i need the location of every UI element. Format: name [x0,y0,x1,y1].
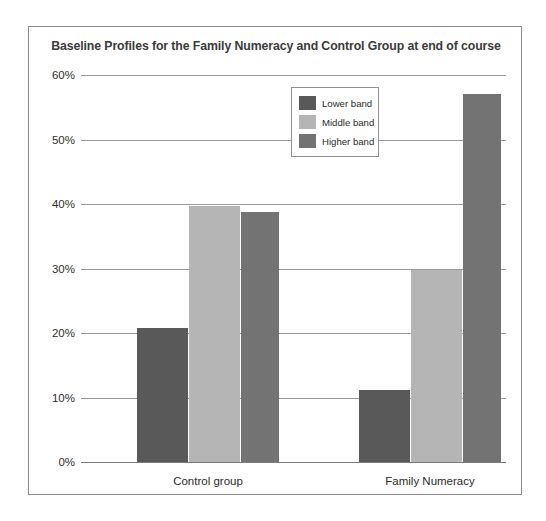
bar [463,94,501,462]
gridline [81,204,506,205]
gridline [81,269,506,270]
bar [359,390,410,462]
y-axis-tick-label: 60% [29,69,75,81]
y-axis-tick-label: 10% [29,392,75,404]
y-axis-tick-label: 50% [29,134,75,146]
chart-title: Baseline Profiles for the Family Numerac… [29,39,523,53]
legend-color-swatch [299,96,316,110]
bar [241,212,279,462]
legend-color-swatch [299,115,316,129]
legend-item: Higher band [299,132,372,150]
x-axis-line [81,462,506,463]
bar [137,328,188,462]
x-axis-category-label: Family Numeracy [385,475,474,487]
legend-label: Higher band [322,136,374,147]
legend-label: Lower band [322,98,372,109]
legend-label: Middle band [322,117,374,128]
legend-color-swatch [299,134,316,148]
y-axis-tick-label: 40% [29,198,75,210]
y-axis-tick-labels: 60%50%40%30%20%10%0% [29,75,75,462]
y-axis-tick-label: 0% [29,456,75,468]
bar [411,270,462,462]
bar [189,206,240,462]
x-axis-category-label: Control group [173,475,243,487]
legend-item: Middle band [299,113,372,131]
legend: Lower bandMiddle bandHigher band [291,87,379,157]
gridline [81,75,506,76]
y-axis-tick-label: 20% [29,327,75,339]
y-axis-tick-label: 30% [29,263,75,275]
legend-item: Lower band [299,94,372,112]
chart-frame: Baseline Profiles for the Family Numerac… [28,26,522,495]
